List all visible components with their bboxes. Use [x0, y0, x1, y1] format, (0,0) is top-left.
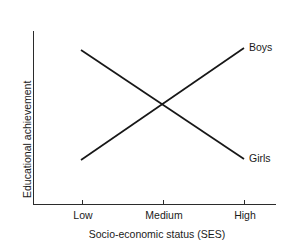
x-axis-title: Socio-economic status (SES) — [89, 229, 226, 240]
series-label-girls: Girls — [249, 153, 271, 164]
chart-container: Educational achievement Low Medium High … — [0, 0, 290, 250]
x-tick-label-medium: Medium — [145, 210, 182, 221]
x-tick-label-low: Low — [73, 210, 92, 221]
x-tick-label-high: High — [234, 210, 256, 221]
series-label-boys: Boys — [249, 42, 272, 53]
y-axis-title: Educational achievement — [22, 81, 33, 198]
